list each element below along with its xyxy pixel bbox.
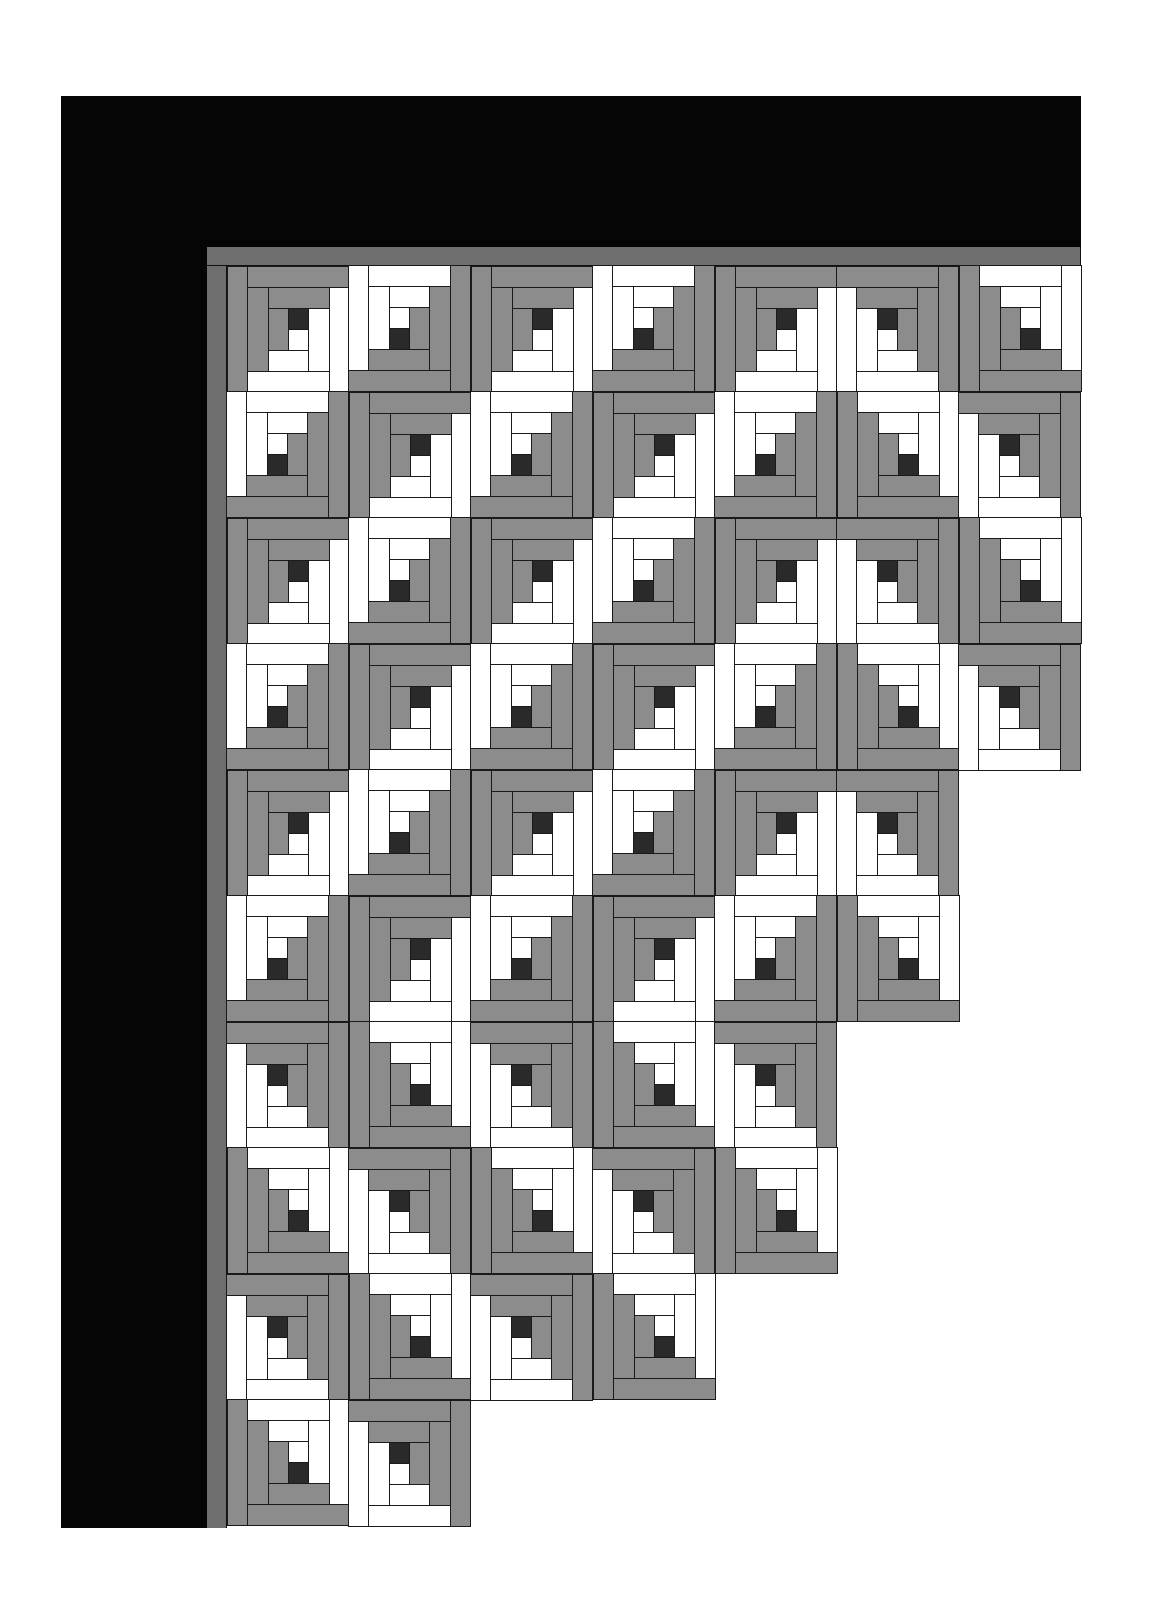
block-log [247, 875, 329, 897]
block-log [776, 833, 797, 855]
block-center-square [999, 686, 1020, 708]
block-log [470, 1022, 573, 1044]
block-log [429, 790, 450, 875]
block-log [978, 413, 1040, 435]
block-log [451, 1021, 472, 1127]
block-log [653, 307, 674, 350]
block-log [390, 686, 411, 729]
block-log [612, 1253, 694, 1275]
block-log [999, 707, 1020, 729]
block-log [348, 769, 369, 875]
block-log [511, 1106, 553, 1128]
block-center-square [410, 686, 431, 708]
block-log [268, 1189, 289, 1232]
quilt-block [349, 896, 471, 1022]
block-log [634, 1105, 696, 1127]
block-center-square [288, 1462, 309, 1484]
block-log [592, 1148, 695, 1170]
block-log [796, 812, 817, 876]
block-log [634, 980, 676, 1002]
block-log [979, 370, 1082, 392]
block-log [572, 391, 593, 518]
block-log [1000, 559, 1021, 602]
block-log [390, 476, 432, 498]
quilt-block [227, 644, 349, 770]
block-log [288, 1189, 309, 1211]
block-log [348, 370, 451, 392]
block-log [287, 1064, 308, 1107]
block-log [552, 812, 573, 876]
block-log [409, 307, 430, 350]
block-log [917, 539, 938, 624]
block-log [389, 286, 431, 308]
block-center-square [288, 1210, 309, 1232]
block-log [592, 1169, 613, 1275]
quilt-block [837, 518, 959, 644]
block-log [857, 643, 939, 665]
block-log [247, 539, 268, 624]
block-log [634, 728, 676, 750]
quilt-block [349, 518, 471, 644]
block-log [390, 1105, 452, 1127]
block-log [511, 1358, 553, 1380]
block-log [471, 770, 492, 897]
block-log [877, 581, 898, 603]
block-log [328, 895, 349, 1022]
block-center-square [1020, 328, 1041, 350]
block-log [491, 875, 573, 897]
block-center-square [654, 1336, 675, 1358]
block-log [451, 917, 472, 1023]
block-center-square [511, 1316, 532, 1338]
block-log [613, 1021, 695, 1043]
block-log [694, 517, 715, 644]
block-log [734, 727, 796, 749]
block-log [267, 664, 309, 686]
block-log [654, 1315, 675, 1337]
block-log [653, 1190, 674, 1233]
block-log [634, 476, 676, 498]
block-center-square [511, 706, 532, 728]
block-log [735, 1147, 817, 1169]
block-center-square [776, 1210, 797, 1232]
outer-border-left [61, 96, 209, 1528]
block-log [247, 287, 268, 372]
block-log [613, 413, 634, 498]
block-log [572, 895, 593, 1022]
block-log [694, 1148, 715, 1275]
block-center-square [389, 328, 410, 350]
quilt-block [715, 644, 837, 770]
block-log [634, 686, 655, 729]
block-log [714, 643, 735, 749]
block-log [450, 517, 471, 644]
block-log [287, 685, 308, 728]
block-log [775, 685, 796, 728]
block-log [329, 1399, 350, 1505]
block-log [512, 560, 533, 603]
block-log [369, 917, 390, 1002]
block-log [979, 622, 1082, 644]
block-log [389, 811, 410, 833]
block-log [654, 959, 675, 981]
quilt-block [227, 266, 349, 392]
block-log [878, 727, 940, 749]
quilt-block [959, 392, 1081, 518]
block-log [490, 643, 572, 665]
block-log [369, 1378, 472, 1400]
block-log [247, 1147, 329, 1169]
block-log [552, 1168, 573, 1232]
block-log [898, 685, 919, 707]
block-log [226, 1000, 329, 1022]
block-log [512, 812, 533, 855]
block-log [1000, 601, 1062, 623]
block-center-square [267, 958, 288, 980]
block-log [226, 496, 329, 518]
block-log [390, 1042, 432, 1064]
block-log [511, 664, 553, 686]
block-log [491, 1147, 573, 1169]
block-log [368, 853, 430, 875]
block-log [368, 517, 450, 539]
block-log [246, 391, 328, 413]
block-log [512, 791, 574, 813]
block-log [756, 1189, 777, 1232]
block-log [795, 916, 816, 1001]
